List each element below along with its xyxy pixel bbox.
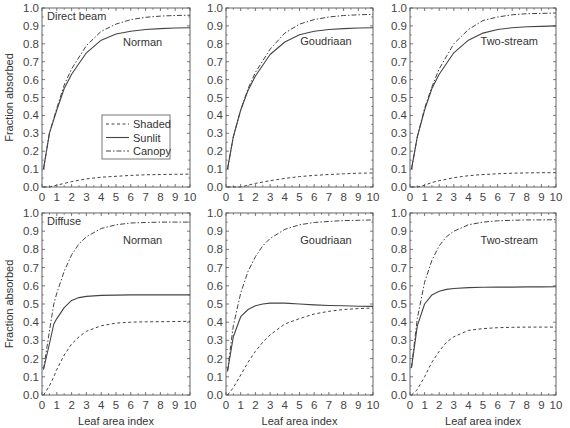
x-tick-label: 3 xyxy=(267,191,273,203)
panel-title: Norman xyxy=(123,36,162,48)
x-tick-label: 6 xyxy=(311,191,317,203)
x-tick-label: 0 xyxy=(407,191,413,203)
y-tick-label: 0.6 xyxy=(207,280,223,292)
x-tick-label: 10 xyxy=(367,191,380,203)
x-tick-label: 9 xyxy=(172,191,178,203)
y-tick-label: 0.4 xyxy=(207,109,224,121)
series-shaded xyxy=(412,327,557,395)
x-axis-label: Leaf area index xyxy=(262,415,338,427)
y-tick-label: 0.7 xyxy=(391,56,407,68)
x-tick-label: 4 xyxy=(282,399,289,411)
panel-title: Two-stream xyxy=(481,234,538,246)
x-tick-label: 0 xyxy=(407,399,413,411)
y-tick-label: 0.1 xyxy=(23,371,39,383)
x-tick-label: 0 xyxy=(223,399,229,411)
y-tick-label: 0.9 xyxy=(391,225,407,237)
y-tick-label: 0.1 xyxy=(207,371,223,383)
y-tick-label: 0.9 xyxy=(23,225,39,237)
y-tick-label: 0.5 xyxy=(391,92,407,104)
y-tick-label: 0.4 xyxy=(23,109,40,121)
legend-label: Shaded xyxy=(133,118,171,130)
plot-frame xyxy=(42,8,190,187)
y-tick-label: 0.5 xyxy=(391,298,407,310)
x-tick-label: 10 xyxy=(367,399,380,411)
series-canopy xyxy=(44,222,191,369)
y-tick-label: 0.3 xyxy=(391,334,407,346)
y-tick-label: 0.2 xyxy=(207,353,223,365)
y-tick-label: 1.0 xyxy=(391,207,407,219)
x-tick-label: 2 xyxy=(436,399,442,411)
y-tick-label: 0.7 xyxy=(207,56,223,68)
y-tick-label: 0.3 xyxy=(391,127,407,139)
x-tick-label: 6 xyxy=(128,191,134,203)
y-tick-label: 0.0 xyxy=(391,389,407,401)
y-tick-label: 0.8 xyxy=(391,243,407,255)
y-tick-label: 0.9 xyxy=(207,20,223,32)
series-shaded xyxy=(228,308,374,395)
x-tick-label: 4 xyxy=(465,399,472,411)
x-tick-label: 5 xyxy=(296,191,302,203)
x-tick-label: 5 xyxy=(113,191,119,203)
y-axis-label: Fraction absorbed xyxy=(3,53,15,142)
series-sunlit xyxy=(44,295,191,370)
x-tick-label: 5 xyxy=(296,399,302,411)
x-tick-label: 7 xyxy=(326,399,332,411)
x-tick-label: 6 xyxy=(494,191,500,203)
y-tick-label: 0.6 xyxy=(207,74,223,86)
y-tick-label: 0.6 xyxy=(23,280,39,292)
y-tick-label: 0.7 xyxy=(23,56,39,68)
y-tick-label: 0.4 xyxy=(391,109,408,121)
panel-title: Goudriaan xyxy=(300,234,351,246)
row-label: Direct beam xyxy=(47,10,106,22)
y-tick-label: 0.9 xyxy=(23,20,39,32)
y-tick-label: 0.3 xyxy=(23,127,39,139)
x-tick-label: 3 xyxy=(83,399,89,411)
series-shaded xyxy=(44,321,191,395)
x-tick-label: 9 xyxy=(355,191,361,203)
x-tick-label: 9 xyxy=(355,399,361,411)
x-tick-label: 5 xyxy=(480,399,486,411)
x-tick-label: 7 xyxy=(509,399,515,411)
y-tick-label: 0.6 xyxy=(391,74,407,86)
x-tick-label: 6 xyxy=(494,399,500,411)
y-tick-label: 0.3 xyxy=(23,334,39,346)
y-tick-label: 0.7 xyxy=(391,262,407,274)
y-tick-label: 0.3 xyxy=(207,127,223,139)
y-tick-label: 0.0 xyxy=(23,389,39,401)
x-tick-label: 8 xyxy=(340,191,346,203)
y-tick-label: 0.2 xyxy=(391,353,407,365)
x-tick-label: 7 xyxy=(509,191,515,203)
x-tick-label: 10 xyxy=(184,399,197,411)
legend-label: Sunlit xyxy=(133,132,161,144)
x-tick-label: 1 xyxy=(421,191,427,203)
y-axis-label: Fraction absorbed xyxy=(3,260,15,349)
y-tick-label: 0.0 xyxy=(207,389,223,401)
y-tick-label: 1.0 xyxy=(207,207,223,219)
panel-title: Two-stream xyxy=(481,35,538,47)
x-tick-label: 3 xyxy=(267,399,273,411)
y-tick-label: 0.8 xyxy=(23,243,39,255)
x-tick-label: 4 xyxy=(98,399,105,411)
y-tick-label: 0.2 xyxy=(391,145,407,157)
x-tick-label: 9 xyxy=(172,399,178,411)
y-tick-label: 0.5 xyxy=(207,92,223,104)
series-shaded xyxy=(44,174,191,187)
series-sunlit xyxy=(228,28,374,169)
y-tick-label: 1.0 xyxy=(23,207,39,219)
x-tick-label: 4 xyxy=(98,191,105,203)
y-tick-label: 0.1 xyxy=(23,163,39,175)
series-shaded xyxy=(228,173,374,187)
x-tick-label: 7 xyxy=(142,191,148,203)
y-tick-label: 0.1 xyxy=(207,163,223,175)
x-tick-label: 0 xyxy=(223,191,229,203)
x-axis-label: Leaf area index xyxy=(445,415,521,427)
series-shaded xyxy=(412,173,557,187)
y-tick-label: 0.6 xyxy=(391,280,407,292)
x-tick-label: 4 xyxy=(282,191,289,203)
legend-label: Canopy xyxy=(133,145,171,157)
y-tick-label: 0.9 xyxy=(207,225,223,237)
y-tick-label: 0.8 xyxy=(207,243,223,255)
x-tick-label: 7 xyxy=(326,191,332,203)
x-tick-label: 8 xyxy=(157,191,163,203)
y-tick-label: 0.2 xyxy=(207,145,223,157)
